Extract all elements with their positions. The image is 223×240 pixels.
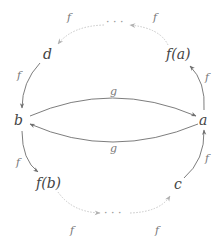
label-g-bottom: g (110, 142, 117, 155)
arrow-f-c-to-a (184, 130, 204, 178)
arrow-f-dots-to-d (58, 25, 104, 44)
label-f-a-fa: f (204, 71, 211, 84)
label-f-fb-dots: f (69, 224, 76, 237)
commutative-diagram: b a d f(a) f(b) c · · · · · · g g f f f … (0, 0, 223, 240)
arrow-f-fa-to-dots (130, 25, 168, 45)
arrow-f-b-to-fb (22, 131, 38, 172)
node-bottom-dots: · · · (104, 207, 121, 220)
label-f-b-fb: f (15, 156, 22, 169)
label-f-fa-dots: f (152, 11, 159, 24)
node-c: c (174, 176, 182, 192)
node-top-dots: · · · (106, 16, 123, 29)
label-f-c-a: f (204, 152, 211, 165)
arrow-f-dots-to-c (130, 196, 170, 213)
node-a: a (199, 112, 207, 128)
arrow-g-a-to-b (30, 124, 198, 142)
label-f-dots-d: f (66, 11, 73, 24)
arrow-f-d-to-b (22, 63, 40, 108)
node-fb: f(b) (35, 175, 61, 191)
label-f-d-b: f (16, 69, 23, 82)
node-fa: f(a) (165, 46, 190, 62)
label-f-dots-c: f (154, 224, 161, 237)
node-d: d (43, 46, 52, 62)
arrow-f-a-to-fa (190, 66, 204, 110)
arrow-g-b-to-a (30, 98, 196, 116)
label-g-top: g (110, 85, 117, 98)
node-b: b (14, 112, 23, 128)
arrow-f-fb-to-dots (58, 192, 100, 213)
